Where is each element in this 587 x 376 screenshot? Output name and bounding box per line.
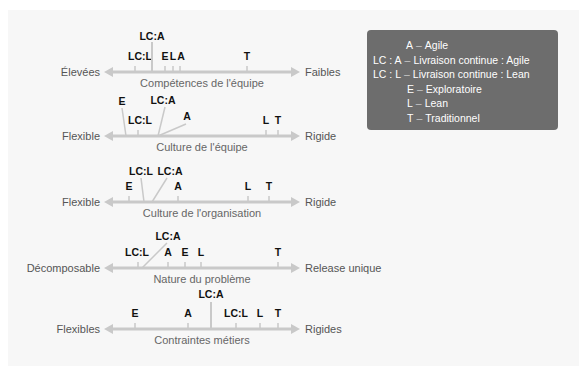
marker-l: L bbox=[263, 114, 270, 136]
marker-e: E bbox=[161, 50, 168, 72]
marker-label: T bbox=[275, 114, 282, 126]
legend-item: A–Agile bbox=[367, 38, 558, 53]
legend-desc: Lean bbox=[425, 97, 448, 109]
marker-label: E bbox=[181, 246, 188, 258]
marker-label: L bbox=[170, 50, 177, 62]
marker-label: A bbox=[183, 110, 191, 122]
marker-label: T bbox=[244, 50, 251, 62]
legend-item: LC : L–Livraison continue : Lean bbox=[367, 67, 558, 82]
axis-left-label: Décomposable bbox=[27, 262, 100, 274]
marker-lc-l: LC:L bbox=[129, 165, 153, 202]
axis-right-label: Release unique bbox=[305, 262, 381, 274]
marker-label: LC:A bbox=[150, 94, 175, 106]
marker-a: A bbox=[177, 50, 185, 72]
legend-key: A bbox=[406, 38, 413, 53]
marker-label: E bbox=[131, 307, 138, 319]
marker-label: LC:A bbox=[139, 30, 164, 42]
marker-label: L bbox=[198, 246, 205, 258]
axis-title: Culture de l'équipe bbox=[156, 141, 247, 153]
marker-t: T bbox=[275, 307, 282, 329]
marker-label: LC:L bbox=[128, 50, 152, 62]
marker-l: L bbox=[170, 50, 177, 72]
marker-label: L bbox=[257, 307, 264, 319]
marker-a: A bbox=[164, 246, 172, 268]
arrow-right-icon bbox=[291, 324, 300, 334]
axis-4: DécomposableRelease uniqueNature du prob… bbox=[27, 230, 382, 285]
legend-desc: Exploratoire bbox=[426, 83, 482, 95]
legend-box: A–AgileLC : A–Livraison continue : Agile… bbox=[367, 30, 558, 130]
legend-item: L–Lean bbox=[367, 96, 558, 111]
legend-dash: – bbox=[414, 83, 426, 95]
marker-e: E bbox=[131, 307, 138, 329]
legend-dash: – bbox=[413, 112, 425, 124]
arrow-right-icon bbox=[291, 67, 300, 77]
marker-label: LC:L bbox=[125, 246, 149, 258]
legend-dash: – bbox=[402, 54, 414, 66]
arrow-right-icon bbox=[291, 263, 300, 273]
legend-key: L bbox=[407, 96, 413, 111]
axis-title: Contraintes métiers bbox=[154, 334, 250, 346]
axis-right-label: Rigide bbox=[305, 130, 336, 142]
marker-label: A bbox=[164, 246, 172, 258]
marker-e: E bbox=[125, 180, 132, 202]
legend-desc: Traditionnel bbox=[425, 112, 479, 124]
marker-label: A bbox=[184, 307, 192, 319]
marker-label: T bbox=[275, 307, 282, 319]
marker-label: E bbox=[161, 50, 168, 62]
axis-1: ÉlevéesFaiblesCompétences de l'équipeLC:… bbox=[61, 30, 341, 89]
marker-label: LC:A bbox=[198, 288, 223, 300]
legend-dash: – bbox=[413, 97, 425, 109]
axis-5: FlexiblesRigidesContraintes métiersEALC:… bbox=[57, 288, 343, 346]
marker-a: A bbox=[184, 307, 192, 329]
marker-label: L bbox=[263, 114, 270, 126]
axis-2: FlexibleRigideCulture de l'équipeELC:LLC… bbox=[62, 94, 336, 153]
marker-e: E bbox=[181, 246, 188, 268]
axis-title: Compétences de l'équipe bbox=[140, 77, 264, 89]
legend-item: E–Exploratoire bbox=[367, 82, 558, 97]
marker-lc-l: LC:L bbox=[224, 307, 248, 329]
axis-right-label: Faibles bbox=[305, 66, 341, 78]
marker-a: A bbox=[174, 180, 182, 202]
marker-lc-a: LC:A bbox=[198, 288, 223, 329]
marker-label: LC:A bbox=[157, 165, 182, 177]
marker-t: T bbox=[266, 180, 273, 202]
marker-label: LC:L bbox=[129, 165, 153, 177]
marker-l: L bbox=[257, 307, 264, 329]
marker-label: T bbox=[275, 246, 282, 258]
axis-title: Nature du problème bbox=[153, 273, 250, 285]
marker-label: A bbox=[177, 50, 185, 62]
marker-lc-l: LC:L bbox=[128, 50, 152, 72]
marker-label: E bbox=[118, 95, 125, 107]
marker-t: T bbox=[244, 50, 251, 72]
marker-e: E bbox=[118, 95, 126, 136]
legend-key: LC : A bbox=[373, 53, 402, 68]
arrow-right-icon bbox=[291, 131, 300, 141]
arrow-left-icon bbox=[104, 324, 113, 334]
axis-3: FlexibleRigideCulture de l'organisationE… bbox=[62, 165, 336, 219]
marker-label: LC:A bbox=[155, 230, 180, 242]
legend-desc: Agile bbox=[425, 39, 448, 51]
marker-t: T bbox=[275, 246, 282, 268]
arrow-left-icon bbox=[104, 131, 113, 141]
axis-left-label: Élevées bbox=[61, 66, 101, 78]
legend-dash: – bbox=[413, 39, 425, 51]
marker-label: E bbox=[125, 180, 132, 192]
axis-left-label: Flexible bbox=[62, 196, 100, 208]
axis-title: Culture de l'organisation bbox=[143, 207, 261, 219]
marker-l: L bbox=[245, 180, 252, 202]
arrow-right-icon bbox=[291, 197, 300, 207]
legend-item: T–Traditionnel bbox=[367, 111, 558, 126]
marker-label: A bbox=[174, 180, 182, 192]
legend-desc: Livraison continue : Agile bbox=[413, 54, 529, 66]
arrow-left-icon bbox=[104, 263, 113, 273]
axis-right-label: Rigides bbox=[305, 323, 342, 335]
axis-left-label: Flexibles bbox=[57, 323, 101, 335]
arrow-left-icon bbox=[104, 197, 113, 207]
legend-key: LC : L bbox=[373, 67, 401, 82]
marker-label: L bbox=[245, 180, 252, 192]
legend-key: E bbox=[407, 82, 414, 97]
legend-desc: Livraison continue : Lean bbox=[413, 68, 530, 80]
marker-t: T bbox=[275, 114, 282, 136]
legend-item: LC : A–Livraison continue : Agile bbox=[367, 53, 558, 68]
arrow-left-icon bbox=[104, 67, 113, 77]
